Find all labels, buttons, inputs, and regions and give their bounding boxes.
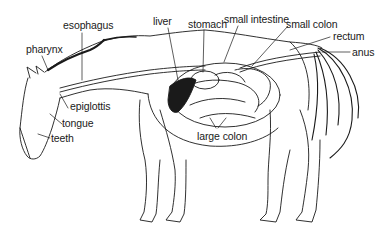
label-stomach: stomach (188, 19, 227, 30)
tail (312, 48, 359, 158)
label-anus: anus (352, 47, 374, 58)
label-esophagus: esophagus (63, 20, 113, 31)
horse-digestive-diagram (0, 0, 388, 235)
label-liver: liver (153, 16, 172, 27)
label-epiglottis: epiglottis (70, 101, 110, 112)
label-small-colon: small colon (286, 19, 337, 30)
label-tongue: tongue (62, 118, 94, 129)
label-rectum: rectum (333, 31, 365, 42)
label-pharynx: pharynx (26, 44, 63, 55)
label-small-intestine: small intestine (224, 14, 289, 25)
label-large-colon: large colon (197, 131, 247, 142)
label-teeth: teeth (51, 133, 74, 144)
